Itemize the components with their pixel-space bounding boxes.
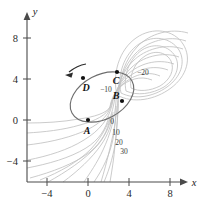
y-tick-label-8: 8 <box>13 33 18 44</box>
contour-label--20: −20 <box>137 68 149 77</box>
x-tick-label--4: −4 <box>41 188 53 199</box>
y-tick-label-4: 4 <box>13 74 19 85</box>
contour-fan-line-1 <box>27 68 168 145</box>
x-tick-label-0: 0 <box>85 188 90 199</box>
x-tick-label-4: 4 <box>126 188 132 199</box>
y-tick-label--4: −4 <box>7 156 19 167</box>
point-marker-C <box>115 70 119 74</box>
contour-plot-figure: −4 0 4 8 −4 0 4 8 y x A <box>0 0 200 215</box>
contour-label-20: 20 <box>115 138 123 147</box>
y-axis-arrowhead <box>24 12 31 20</box>
contour-level-20 <box>101 39 186 182</box>
contour-fan-line-2 <box>27 74 160 133</box>
contour-label--10: −10 <box>100 85 112 94</box>
point-label-B: B <box>112 90 120 101</box>
y-tick-label-0: 0 <box>13 115 18 126</box>
axes-group <box>23 12 188 186</box>
x-axis-arrowhead <box>180 179 188 186</box>
point-label-A: A <box>83 125 91 136</box>
point-label-C: C <box>113 75 120 86</box>
x-axis-label: x <box>191 177 197 188</box>
contour-lines-group <box>27 31 188 182</box>
contour-label-0: 0 <box>110 117 114 126</box>
y-axis-label: y <box>32 6 38 17</box>
point-marker-A <box>86 118 90 122</box>
direction-arrow-stroke <box>69 64 86 72</box>
point-label-D: D <box>81 82 89 93</box>
direction-arrow-group <box>65 64 86 78</box>
contour-labels-group: −20 −10 0 10 20 30 <box>100 68 149 156</box>
contour-label-10: 10 <box>112 128 120 137</box>
x-tick-label-8: 8 <box>167 188 172 199</box>
point-marker-B <box>120 99 124 103</box>
contour-label-30: 30 <box>120 147 128 156</box>
plot-canvas: −4 0 4 8 −4 0 4 8 y x A <box>0 0 200 215</box>
direction-arrow-head <box>65 73 73 78</box>
point-marker-D <box>81 76 85 80</box>
